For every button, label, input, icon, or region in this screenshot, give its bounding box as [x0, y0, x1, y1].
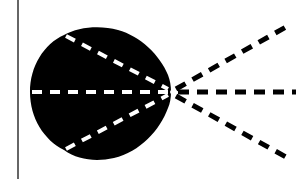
ray-upper-outer: [176, 27, 286, 89]
outer-dashed-rays: [176, 27, 296, 157]
diagram-canvas: [0, 0, 296, 179]
ray-lower-outer: [176, 96, 286, 157]
focal-point: [170, 90, 174, 94]
